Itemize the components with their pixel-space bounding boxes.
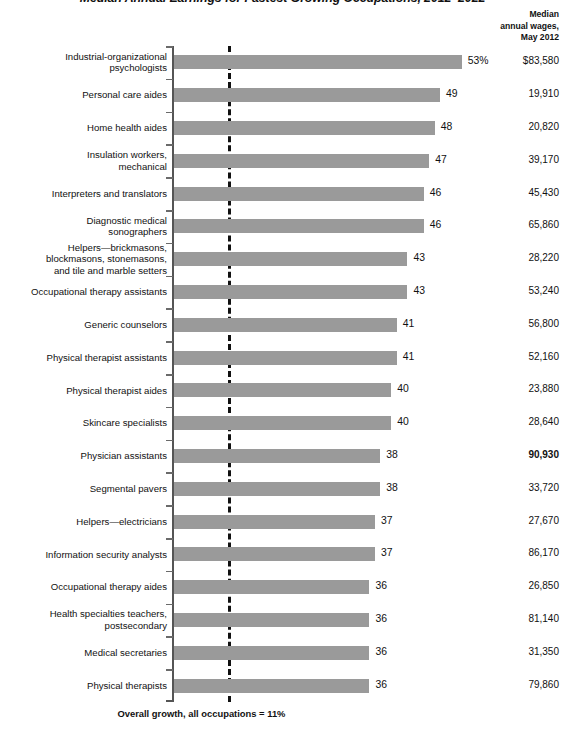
bar	[174, 88, 440, 102]
chart-row: Physical therapist aides4023,880	[0, 374, 565, 407]
axis-tick	[166, 276, 173, 278]
chart-row: Skincare specialists4028,640	[0, 407, 565, 440]
bar	[174, 187, 424, 201]
bar-value-label: 37	[381, 547, 393, 558]
bar	[174, 449, 380, 463]
category-label: Home health aides	[0, 122, 167, 134]
reference-line-footnote: Overall growth, all occupations = 11%	[0, 708, 403, 719]
median-wage-value: 19,910	[439, 88, 559, 99]
bar-value-label: 40	[397, 416, 409, 427]
axis-tick	[166, 308, 173, 310]
median-wage-value: 81,140	[439, 613, 559, 624]
chart-plot-area: Industrial-organizationalpsychologists53…	[0, 46, 565, 702]
median-wage-value: $83,580	[439, 55, 559, 66]
category-label: Generic counselors	[0, 319, 167, 331]
bar-value-label: 36	[375, 580, 387, 591]
bar-value-label: 43	[413, 252, 425, 263]
chart-row: Interpreters and translators4645,430	[0, 177, 565, 210]
chart-row: Physician assistants3890,930	[0, 440, 565, 473]
bar	[174, 580, 369, 594]
chart-row: Helpers—electricians3727,670	[0, 505, 565, 538]
category-label: Diagnostic medicalsonographers	[0, 215, 167, 238]
axis-tick	[166, 144, 173, 146]
median-wage-value: 90,930	[439, 449, 559, 460]
category-label-line: Occupational therapy assistants	[0, 286, 167, 298]
bar-value-label: 36	[375, 679, 387, 690]
bar	[174, 547, 375, 561]
chart-row: Personal care aides4919,910	[0, 79, 565, 112]
category-label-line: blockmasons, stonemasons,	[0, 253, 167, 265]
bar-value-label: 41	[403, 351, 415, 362]
bar-value-label: 40	[397, 383, 409, 394]
chart-row: Helpers—brickmasons,blockmasons, stonema…	[0, 243, 565, 276]
chart-row: Information security analysts3786,170	[0, 538, 565, 571]
category-label: Interpreters and translators	[0, 188, 167, 200]
category-label: Medical secretaries	[0, 647, 167, 659]
category-label: Insulation workers,mechanical	[0, 149, 167, 172]
axis-tick	[166, 636, 173, 638]
bar	[174, 679, 369, 693]
wage-column-header-line1: Median	[439, 9, 559, 21]
category-label-line: Diagnostic medical	[0, 215, 167, 227]
category-label: Occupational therapy aides	[0, 581, 167, 593]
chart-row: Home health aides4820,820	[0, 112, 565, 145]
axis-tick	[166, 604, 173, 606]
median-wage-value: 86,170	[439, 547, 559, 558]
bar	[174, 613, 369, 627]
median-wage-value: 65,860	[439, 219, 559, 230]
category-label-line: Physical therapist aides	[0, 385, 167, 397]
category-label-line: Insulation workers,	[0, 149, 167, 161]
category-label: Physical therapist assistants	[0, 352, 167, 364]
wage-column-header-line2: annual wages,	[439, 21, 559, 33]
category-label: Segmental pavers	[0, 483, 167, 495]
page-title: Median Annual Earnings for Fastest Growi…	[0, 0, 565, 5]
median-wage-value: 52,160	[439, 351, 559, 362]
median-wage-value: 31,350	[439, 646, 559, 657]
category-label: Personal care aides	[0, 89, 167, 101]
bar-value-label: 38	[386, 482, 398, 493]
wage-column-header-line3: May 2012	[439, 32, 559, 44]
category-label: Physical therapist aides	[0, 385, 167, 397]
category-label-line: Medical secretaries	[0, 647, 167, 659]
median-wage-value: 39,170	[439, 154, 559, 165]
category-label-line: Industrial-organizational	[0, 51, 167, 63]
median-wage-value: 53,240	[439, 285, 559, 296]
axis-tick	[166, 505, 173, 507]
axis-tick	[166, 571, 173, 573]
median-wage-value: 28,640	[439, 416, 559, 427]
chart-row: Diagnostic medicalsonographers4665,860	[0, 210, 565, 243]
category-label-line: Information security analysts	[0, 549, 167, 561]
category-label: Physician assistants	[0, 450, 167, 462]
bar	[174, 154, 429, 168]
bar	[174, 515, 375, 529]
category-label-line: Interpreters and translators	[0, 188, 167, 200]
bar	[174, 55, 462, 69]
bar-value-label: 36	[375, 646, 387, 657]
bar	[174, 482, 380, 496]
category-label-line: Home health aides	[0, 122, 167, 134]
median-wage-value: 20,820	[439, 121, 559, 132]
bar	[174, 318, 397, 332]
chart-row: Occupational therapy assistants4353,240	[0, 276, 565, 309]
bar	[174, 351, 397, 365]
bar	[174, 252, 407, 266]
axis-tick	[166, 341, 173, 343]
bar	[174, 121, 435, 135]
bar-value-label: 43	[413, 285, 425, 296]
axis-tick	[166, 177, 173, 179]
category-label-line: Segmental pavers	[0, 483, 167, 495]
chart-row: Medical secretaries3631,350	[0, 636, 565, 669]
bar-value-label: 36	[375, 613, 387, 624]
axis-tick	[166, 79, 173, 81]
chart-row: Insulation workers,mechanical4739,170	[0, 144, 565, 177]
median-wage-value: 33,720	[439, 482, 559, 493]
category-label: Helpers—electricians	[0, 516, 167, 528]
median-wage-value: 23,880	[439, 383, 559, 394]
bar	[174, 646, 369, 660]
category-label-line: psychologists	[0, 62, 167, 74]
chart-row: Occupational therapy aides3626,850	[0, 571, 565, 604]
median-wage-value: 26,850	[439, 580, 559, 591]
median-wage-value: 45,430	[439, 187, 559, 198]
category-label-line: Helpers—brickmasons,	[0, 242, 167, 254]
category-label-line: Personal care aides	[0, 89, 167, 101]
